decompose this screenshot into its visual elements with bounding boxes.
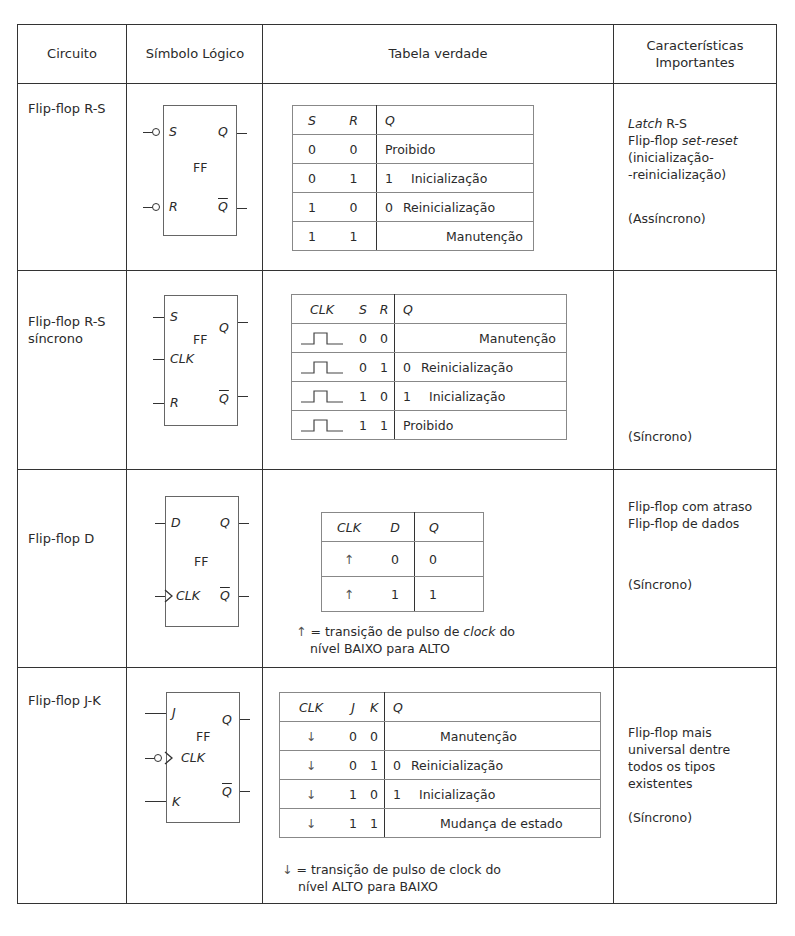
truth-table-header: CLK S R Q: [292, 295, 567, 324]
column-divider: [126, 24, 127, 904]
falling-edge-icon: ↓: [280, 780, 343, 809]
wire: [239, 523, 249, 524]
truth-table-jk: CLK J K Q ↓ 0 0 Manutenção ↓ 0 1 0Reinic…: [279, 692, 601, 838]
circuit-name-jk: Flip-flop J-K: [28, 692, 101, 709]
header-truth-table: Tabela verdade: [263, 24, 613, 83]
ff-label: FF: [196, 729, 210, 744]
ff-label: FF: [194, 554, 208, 569]
table-row: 1 1 Manutenção: [293, 222, 534, 251]
inverter-bubble-icon: [154, 754, 162, 762]
circuit-name-d: Flip-flop D: [28, 530, 94, 547]
pin-r: R: [169, 199, 178, 214]
truth-table-header: CLK J K Q: [280, 693, 601, 722]
clock-pulse-icon: [300, 388, 344, 404]
inverter-bubble-icon: [152, 128, 160, 136]
pin-s: S: [170, 309, 178, 324]
falling-edge-icon: ↓: [280, 751, 343, 780]
header-circuit: Circuito: [17, 24, 127, 83]
table-row: 0 0 Proibido: [293, 135, 534, 164]
table-row: 1 0 0Reinicialização: [293, 193, 534, 222]
pin-s: S: [169, 124, 177, 139]
rising-edge-icon: ↑: [296, 624, 306, 639]
pin-d: D: [171, 515, 181, 530]
pin-q: Q: [218, 124, 228, 139]
pin-q: Q: [219, 320, 229, 335]
pin-r: R: [170, 395, 179, 410]
column-divider: [262, 24, 263, 904]
table-row: ↑ 0 0: [322, 542, 484, 577]
header-features-line1: Características: [647, 37, 744, 54]
wire: [237, 208, 247, 209]
wire: [238, 396, 248, 397]
row-divider: [17, 667, 777, 668]
falling-edge-note: ↓ = transição de pulso de clock do nível…: [282, 861, 501, 895]
table-row: ↑ 1 1: [322, 577, 484, 612]
ff-label: FF: [193, 332, 207, 347]
pin-j: J: [172, 705, 176, 720]
table-row: ↓ 1 0 1 Inicialização: [280, 780, 601, 809]
table-row: 1 0 1 Inicialização: [292, 382, 567, 411]
pin-q: Q: [220, 515, 230, 530]
pin-q: Q: [222, 712, 232, 727]
table-row: ↓ 1 1 Mudança de estado: [280, 809, 601, 838]
circuit-name-rs: Flip-flop R-S: [28, 100, 106, 117]
ff-label: FF: [193, 160, 207, 175]
rising-edge-note: ↑ = transição de pulso de clock do nível…: [296, 623, 515, 657]
row-divider: [17, 270, 777, 271]
wire: [153, 403, 164, 404]
pin-clk: CLK: [176, 588, 200, 603]
table-row: 1 1 Proibido: [292, 411, 567, 440]
pin-clk: CLK: [170, 351, 194, 366]
clock-pulse-icon: [300, 417, 344, 433]
features-rs: Latch R-S Flip-flop set-reset (inicializ…: [628, 115, 768, 227]
pin-q-bar: Q: [222, 784, 232, 799]
clock-edge-triangle-icon: [164, 751, 173, 765]
wire: [240, 791, 250, 792]
pin-k: K: [172, 794, 180, 809]
wire: [153, 317, 164, 318]
table-row: 0 1 0Reinicialização: [292, 353, 567, 382]
pin-clk: CLK: [181, 750, 205, 765]
table-row: ↓ 0 0 Manutenção: [280, 722, 601, 751]
truth-table-d: CLK D Q ↑ 0 0 ↑ 1 1: [321, 512, 484, 612]
falling-edge-icon: ↓: [280, 722, 343, 751]
clock-pulse-icon: [300, 330, 344, 346]
clock-edge-triangle-icon: [164, 589, 173, 603]
table-row: 0 1 1 Inicialização: [293, 164, 534, 193]
header-symbol: Símbolo Lógico: [127, 24, 263, 83]
wire: [145, 713, 166, 714]
table-row: 0 0 Manutenção: [292, 324, 567, 353]
truth-table-rs-sync: CLK S R Q 0 0 Manutenção 0 1 0Reiniciali…: [291, 294, 567, 440]
falling-edge-icon: ↓: [280, 809, 343, 838]
truth-table-rs: S R Q 0 0 Proibido 0 1 1 Inicialização 1…: [292, 105, 534, 251]
row-divider: [17, 469, 777, 470]
features-jk: Flip-flop mais universal dentre todos os…: [628, 724, 768, 826]
header-features: Características Importantes: [613, 24, 777, 83]
column-divider: [613, 24, 614, 904]
wire: [153, 359, 164, 360]
header-features-line2: Importantes: [655, 54, 734, 71]
rising-edge-icon: ↑: [322, 577, 377, 612]
rising-edge-icon: ↑: [322, 542, 377, 577]
features-rs-sync: (Síncrono): [628, 428, 768, 445]
pin-q-bar: Q: [220, 588, 230, 603]
wire: [239, 596, 249, 597]
row-divider: [17, 83, 777, 84]
circuit-name-rs-sync: Flip-flop R-S síncrono: [28, 313, 106, 347]
table-row: ↓ 0 1 0Reinicialização: [280, 751, 601, 780]
pin-q-bar: Q: [219, 391, 229, 406]
falling-edge-icon: ↓: [282, 862, 292, 877]
wire: [240, 719, 250, 720]
clock-pulse-icon: [300, 359, 344, 375]
pin-q-bar: Q: [218, 199, 228, 214]
truth-table-header: S R Q: [293, 106, 534, 135]
inverter-bubble-icon: [152, 203, 160, 211]
wire: [237, 133, 247, 134]
truth-table-header: CLK D Q: [322, 513, 484, 542]
wire: [145, 801, 166, 802]
features-d: Flip-flop com atraso Flip-flop de dados …: [628, 498, 768, 593]
wire: [155, 523, 165, 524]
wire: [238, 322, 248, 323]
